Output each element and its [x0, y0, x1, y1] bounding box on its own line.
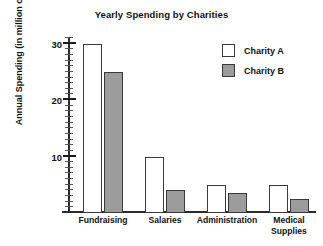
y-tick-label: 10	[51, 151, 62, 162]
bar	[290, 199, 309, 213]
bar	[269, 185, 288, 213]
bar	[104, 72, 123, 213]
y-axis-label: Annual Spending (in million of $)	[14, 0, 24, 140]
chart-legend: Charity A Charity B	[222, 44, 284, 84]
legend-item-charity-b: Charity B	[222, 64, 284, 77]
x-axis-category-label: Administration	[197, 215, 258, 226]
bar	[83, 44, 102, 213]
legend-swatch-icon-charity-b	[222, 64, 235, 77]
legend-label-charity-b: Charity B	[244, 66, 284, 76]
bar	[166, 190, 185, 213]
bar	[207, 185, 226, 213]
y-tick-label: 30	[51, 38, 62, 49]
legend-label-charity-a: Charity A	[244, 46, 284, 56]
bar	[228, 193, 247, 213]
x-axis-category-label: Medical Supplies	[271, 215, 307, 237]
y-tick-label: 20	[51, 95, 62, 106]
x-axis-category-label: Fundraising	[78, 215, 127, 226]
legend-swatch-icon-charity-a	[222, 44, 235, 57]
x-axis-category-labels: FundraisingSalariesAdministrationMedical…	[68, 215, 316, 245]
x-axis-category-label: Salaries	[149, 215, 182, 226]
chart-title: Yearly Spending by Charities	[0, 9, 323, 20]
bar	[145, 157, 164, 213]
bar-chart: Yearly Spending by Charities Annual Spen…	[0, 0, 323, 246]
legend-item-charity-a: Charity A	[222, 44, 284, 57]
